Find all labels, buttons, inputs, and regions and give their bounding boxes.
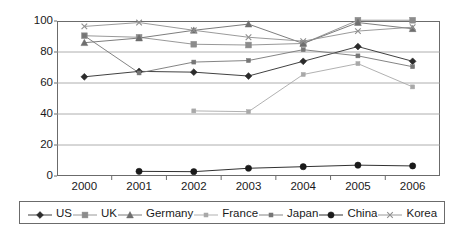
- legend-marker-icon: [377, 207, 403, 219]
- legend-marker-icon: [117, 207, 143, 219]
- y-tick-label: 40: [7, 108, 53, 120]
- y-tick-label: 100: [7, 15, 53, 27]
- legend-item-uk[interactable]: UK: [72, 207, 117, 219]
- data-point: [328, 211, 334, 217]
- y-tick-label: 80: [7, 46, 53, 58]
- legend-marker-icon: [318, 207, 344, 219]
- legend-marker-icon: [72, 207, 98, 219]
- legend-marker-icon: [258, 207, 284, 219]
- x-tick-label: 2005: [331, 180, 385, 193]
- legend-item-korea[interactable]: Korea: [377, 207, 437, 219]
- legend-label: UK: [101, 207, 117, 219]
- y-tick-label: 20: [7, 139, 53, 151]
- legend-label: Korea: [406, 207, 437, 219]
- plot-area: [57, 21, 440, 176]
- legend-item-germany[interactable]: Germany: [117, 207, 193, 219]
- legend-label: Germany: [146, 207, 193, 219]
- x-tick-label: 2004: [276, 180, 330, 193]
- data-point: [204, 213, 208, 217]
- y-axis: 020406080100: [0, 0, 53, 233]
- y-tick-label: 0: [7, 170, 53, 182]
- x-tick-label: 2006: [386, 180, 440, 193]
- legend-label: France: [222, 207, 258, 219]
- x-tick-label: 2001: [112, 180, 166, 193]
- legend-item-japan[interactable]: Japan: [258, 207, 318, 219]
- legend-item-china[interactable]: China: [318, 207, 377, 219]
- legend-marker-icon: [193, 207, 219, 219]
- line-chart: 020406080100 200020012002200320042005200…: [0, 0, 463, 233]
- x-tick-label: 2000: [57, 180, 111, 193]
- legend-label: Japan: [287, 207, 318, 219]
- chart-legend: USUKGermanyFranceJapanChinaKorea: [19, 201, 445, 224]
- data-point: [82, 212, 88, 218]
- y-tick-label: 60: [7, 77, 53, 89]
- x-tick-label: 2002: [167, 180, 221, 193]
- legend-item-france[interactable]: France: [193, 207, 258, 219]
- x-axis: 2000200120022003200420052006: [57, 180, 440, 198]
- legend-marker-icon: [27, 207, 53, 219]
- legend-item-us[interactable]: US: [27, 207, 72, 219]
- x-tick-label: 2003: [222, 180, 276, 193]
- data-point: [269, 213, 273, 217]
- legend-label: US: [56, 207, 72, 219]
- data-point: [37, 211, 44, 218]
- legend-label: China: [347, 207, 377, 219]
